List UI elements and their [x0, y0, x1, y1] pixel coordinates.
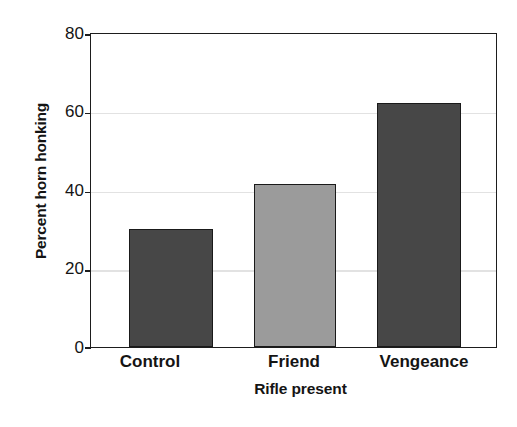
x-axis-title: Rifle present — [0, 380, 517, 398]
bar-control — [129, 229, 213, 347]
bar-friend — [254, 184, 336, 347]
x-tick-label-control: Control — [88, 352, 212, 372]
y-tick-mark-60 — [85, 113, 91, 115]
y-tick-mark-80 — [85, 34, 91, 36]
y-tick-label: 0 — [44, 339, 84, 356]
x-tick-label-vengeance: Vengeance — [354, 352, 494, 372]
y-tick-mark-40 — [85, 192, 91, 194]
y-tick-label: 80 — [44, 25, 84, 42]
x-tick-label-friend: Friend — [232, 352, 356, 372]
y-tick-mark-0 — [85, 347, 91, 349]
plot-area — [90, 33, 497, 348]
bar-chart-figure: Percent horn honking 80 60 40 20 0 Contr… — [0, 0, 517, 427]
y-tick-mark-20 — [85, 270, 91, 272]
y-tick-label: 40 — [44, 182, 84, 199]
y-tick-label: 60 — [44, 103, 84, 120]
bar-vengeance — [377, 103, 461, 347]
y-axis-tick-labels: 80 60 40 20 0 — [40, 0, 84, 427]
y-tick-label: 20 — [44, 260, 84, 277]
x-axis-title-text: Rifle present — [170, 380, 347, 398]
